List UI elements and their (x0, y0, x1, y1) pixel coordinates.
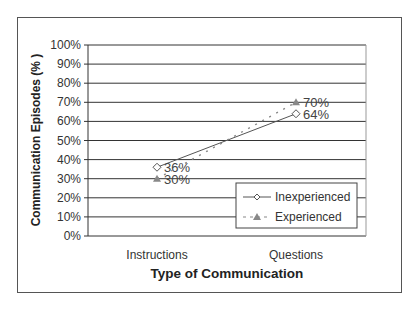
y-tick-label: 0% (64, 229, 82, 243)
diamond-marker-icon (292, 110, 300, 118)
x-axis-title: Type of Communication (151, 266, 304, 281)
legend-label-experienced: Experienced (275, 210, 342, 224)
y-tick-label: 40% (57, 153, 81, 167)
data-label: 30% (164, 172, 190, 187)
y-tick-label: 10% (57, 210, 81, 224)
y-tick-label: 50% (57, 134, 81, 148)
y-tick-label: 80% (57, 76, 81, 90)
legend-label-inexperienced: Inexperienced (275, 190, 350, 204)
x-category-instructions: Instructions (126, 248, 187, 262)
y-tick-label: 30% (57, 172, 81, 186)
data-label: 70% (303, 95, 329, 110)
y-tick-label: 70% (57, 95, 81, 109)
y-tick-label: 20% (57, 191, 81, 205)
line-chart: 0%10%20%30%40%50%60%70%80%90%100% Instru… (0, 0, 416, 312)
legend: Inexperienced Experienced (236, 183, 357, 228)
x-category-questions: Questions (269, 248, 323, 262)
y-axis-title: Communication Episodes (% ) (29, 54, 43, 227)
y-tick-label: 90% (57, 57, 81, 71)
y-tick-label: 100% (50, 38, 81, 52)
diamond-marker-icon (153, 163, 161, 171)
y-tick-label: 60% (57, 114, 81, 128)
y-tick-labels: 0%10%20%30%40%50%60%70%80%90%100% (50, 38, 81, 243)
